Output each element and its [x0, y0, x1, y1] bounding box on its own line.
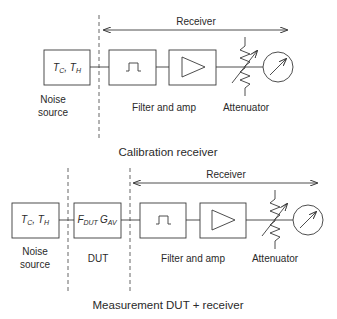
dut-label: DUT	[88, 253, 109, 264]
calibration-section: Receiver TC, TH Noise source Filter and …	[38, 15, 293, 158]
attenuator-label: Attenuator	[252, 253, 299, 264]
noise-source-label-line2: source	[38, 107, 68, 118]
noise-figure-diagram: Receiver TC, TH Noise source Filter and …	[0, 0, 337, 319]
measurement-title: Measurement DUT + receiver	[93, 299, 244, 311]
filter-amp-label: Filter and amp	[132, 102, 196, 113]
amplifier-box	[200, 203, 246, 238]
variable-attenuator-icon	[232, 37, 257, 96]
filter-box	[109, 50, 156, 85]
calibration-title: Calibration receiver	[118, 146, 217, 158]
filter-box	[140, 203, 186, 238]
noise-source-label-line1: Noise	[40, 94, 66, 105]
noise-source-label-line1: Noise	[22, 246, 48, 257]
amplifier-box	[169, 50, 216, 85]
filter-amp-label: Filter and amp	[161, 253, 225, 264]
attenuator-label: Attenuator	[223, 102, 270, 113]
measurement-section: Receiver TC, TH FDUTGAV Noise source	[12, 168, 323, 311]
variable-attenuator-icon	[262, 190, 287, 249]
noise-source-label-line2: source	[20, 259, 50, 270]
receiver-label: Receiver	[206, 169, 246, 180]
receiver-label: Receiver	[176, 16, 216, 27]
power-meter-icon	[263, 52, 293, 82]
power-meter-icon	[293, 205, 323, 235]
